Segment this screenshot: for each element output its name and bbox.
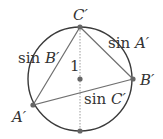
label-sin-c: sin C′ xyxy=(84,90,126,108)
center-point xyxy=(77,76,82,81)
point-c xyxy=(77,24,82,29)
label-a: A′ xyxy=(10,108,27,126)
circumcircle-diagram: C′ B′ A′ 1 sin A′ sin B′ sin C′ xyxy=(0,0,163,139)
label-b: B′ xyxy=(139,71,155,89)
label-radius: 1 xyxy=(70,57,80,75)
point-a xyxy=(30,102,35,107)
label-sin-b: sin B′ xyxy=(18,49,60,67)
label-sin-a: sin A′ xyxy=(108,34,150,52)
point-b xyxy=(130,76,135,81)
label-c: C′ xyxy=(73,6,88,24)
point-bottom xyxy=(77,128,82,133)
